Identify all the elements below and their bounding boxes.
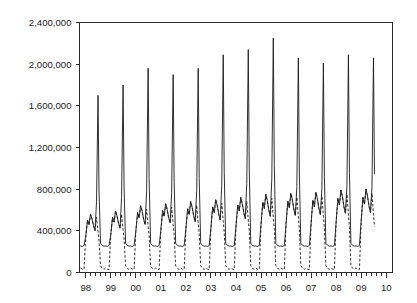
x-tick-label: 01 <box>156 282 167 293</box>
y-tick-label: 1,200,000 <box>29 142 72 153</box>
x-tick-label: 07 <box>306 282 317 293</box>
y-tick-label: 400,000 <box>37 225 72 236</box>
x-tick-label: 05 <box>256 282 267 293</box>
line-chart: 0400,000800,0001,200,0001,600,0002,000,0… <box>0 0 417 303</box>
x-tick-label: 02 <box>181 282 192 293</box>
x-tick-label: 08 <box>331 282 342 293</box>
x-tick-label: 04 <box>231 282 242 293</box>
x-tick-label: 00 <box>131 282 142 293</box>
chart-container: 0400,000800,0001,200,0001,600,0002,000,0… <box>0 0 417 303</box>
x-tick-label: 98 <box>80 282 91 293</box>
x-tick-label: 03 <box>206 282 217 293</box>
x-tick-label: 99 <box>105 282 116 293</box>
y-tick-label: 0 <box>66 267 71 278</box>
x-tick-label: 09 <box>356 282 367 293</box>
y-tick-label: 2,400,000 <box>29 17 72 28</box>
series-line-solid <box>81 38 375 246</box>
y-tick-label: 2,000,000 <box>29 59 72 70</box>
x-tick-label: 06 <box>281 282 292 293</box>
y-tick-label: 800,000 <box>37 184 72 195</box>
x-tick-label: 10 <box>381 282 392 293</box>
y-tick-label: 1,600,000 <box>29 100 72 111</box>
